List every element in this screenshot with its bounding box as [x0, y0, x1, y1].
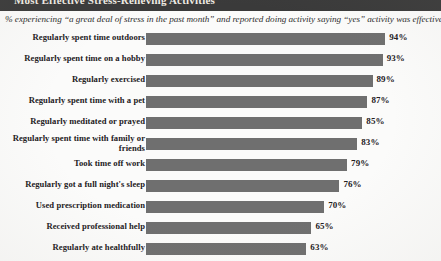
bar-value-label: 93%: [387, 53, 405, 63]
chart-row: Regularly spent time with family or frie…: [0, 133, 441, 154]
category-label: Regularly exercised: [2, 70, 145, 84]
chart-row: Took time off work79%: [0, 154, 441, 175]
category-label: Regularly meditated or prayed: [2, 112, 145, 126]
bar-value-label: 85%: [366, 116, 384, 126]
chart-row: Regularly spent time outdoors94%: [0, 28, 441, 49]
bar: [146, 243, 306, 255]
bar: [146, 33, 385, 45]
bar-value-label: 94%: [389, 32, 407, 42]
bar: [146, 75, 373, 87]
bar-value-label: 83%: [361, 137, 379, 147]
chart-header-strip: Most Effective Stress-Relieving Activiti…: [0, 0, 441, 11]
category-label: Regularly spent time on a hobby: [2, 49, 145, 63]
chart-row: Regularly ate healthfully63%: [0, 238, 441, 259]
bar: [146, 201, 324, 213]
bar: [146, 180, 339, 192]
chart-row: Regularly spent time on a hobby93%: [0, 49, 441, 70]
bar-value-label: 76%: [343, 179, 361, 189]
category-label: Regularly ate healthfully: [2, 238, 145, 252]
bar: [146, 54, 383, 66]
bar-value-label: 89%: [377, 74, 395, 84]
bar-value-label: 87%: [371, 95, 389, 105]
category-label: Took time off work: [2, 154, 145, 168]
chart-row: Used prescription medication70%: [0, 196, 441, 217]
category-label: Regularly spent time with family or frie…: [2, 133, 145, 153]
bar-value-label: 65%: [315, 221, 333, 231]
chart-row: Regularly spent time with a pet87%: [0, 91, 441, 112]
category-label: Regularly got a full night's sleep: [2, 175, 145, 189]
category-label: Received professional help: [2, 217, 145, 231]
chart-row: Received professional help65%: [0, 217, 441, 238]
bar: [146, 222, 311, 234]
bar: [146, 96, 367, 108]
bar-value-label: 70%: [328, 200, 346, 210]
chart-row: Regularly meditated or prayed85%: [0, 112, 441, 133]
bar-value-label: 63%: [310, 242, 328, 252]
category-label: Used prescription medication: [2, 196, 145, 210]
plot-area: Regularly spent time outdoors94%Regularl…: [0, 28, 441, 261]
bar: [146, 138, 357, 150]
chart-root: Most Effective Stress-Relieving Activiti…: [0, 0, 441, 261]
category-label: Regularly spent time with a pet: [2, 91, 145, 105]
chart-row: Regularly got a full night's sleep76%: [0, 175, 441, 196]
category-label: Regularly spent time outdoors: [2, 28, 145, 42]
chart-row: Regularly exercised89%: [0, 70, 441, 91]
bar-value-label: 79%: [351, 158, 369, 168]
chart-header-title: Most Effective Stress-Relieving Activiti…: [14, 0, 215, 6]
bar: [146, 159, 347, 171]
bar: [146, 117, 362, 129]
chart-subtitle: % experiencing “a great deal of stress i…: [5, 14, 439, 25]
